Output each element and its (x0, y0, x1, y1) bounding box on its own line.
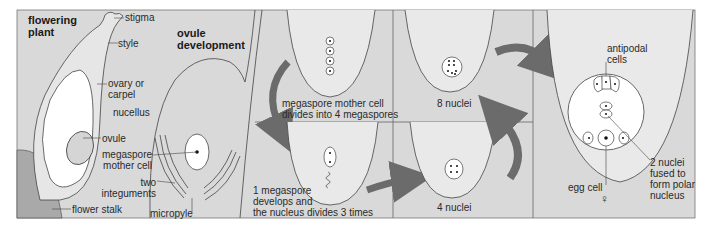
four-megaspores-caption: megaspore mother cell divides into 4 meg… (282, 98, 398, 120)
micropyle-label: micropyle (150, 208, 193, 219)
ovary-label: ovary or carpel (108, 78, 144, 100)
style-label: style (118, 38, 139, 49)
flowering-plant-title: flowering plant (28, 14, 77, 38)
megaspore-mother-cell-label: megaspore mother cell (102, 149, 152, 171)
ovule-label: ovule (102, 133, 126, 144)
ovule-development-title: ovule development (177, 27, 245, 51)
egg-cell-label: egg cell (568, 182, 602, 193)
eight-nuclei-caption: 8 nuclei (437, 98, 471, 109)
two-integuments-label: two integu­ments (92, 177, 156, 199)
megaspore-develops-caption: 1 megaspore develops and the nucleus div… (253, 185, 373, 218)
flower-stalk-label: flower stalk (72, 204, 122, 215)
antipodal-cells-label: antipodal cells (607, 43, 648, 65)
nucellus-label: nucellus (113, 107, 150, 118)
female-symbol-icon: ♀ (600, 194, 609, 205)
four-nuclei-caption: 4 nuclei (437, 202, 471, 213)
stigma-label: stigma (125, 12, 154, 23)
polar-nucleus-label: 2 nuclei fused to form polar nucleus (650, 157, 695, 201)
